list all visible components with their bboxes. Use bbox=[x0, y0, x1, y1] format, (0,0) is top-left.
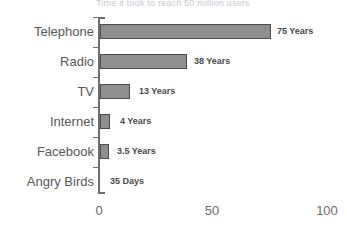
category-label: Telephone bbox=[0, 23, 94, 40]
category-label: TV bbox=[0, 83, 94, 100]
category-label: Internet bbox=[0, 113, 94, 130]
category-tick bbox=[93, 137, 99, 138]
bar-value-label: 35 Days bbox=[110, 175, 144, 188]
value-axis: 0 50 100 bbox=[0, 196, 347, 235]
x-tick-label-0: 0 bbox=[69, 202, 129, 219]
bar-value-label: 38 Years bbox=[194, 55, 230, 68]
bar-tv bbox=[100, 84, 130, 99]
plot-area: Telephone 75 Years Radio 38 Years TV 13 … bbox=[0, 14, 347, 196]
bar-row: Internet 4 Years bbox=[0, 107, 347, 137]
bar-telephone bbox=[100, 24, 271, 39]
bar-value-label: 75 Years bbox=[277, 25, 313, 38]
bar-value-label: 4 Years bbox=[120, 115, 151, 128]
category-tick bbox=[93, 167, 99, 168]
bar-value-label: 13 Years bbox=[139, 85, 175, 98]
category-label: Radio bbox=[0, 53, 94, 70]
category-tick bbox=[93, 107, 99, 108]
bar-value-label: 3.5 Years bbox=[117, 145, 156, 158]
category-label: Angry Birds bbox=[0, 173, 94, 190]
bar-internet bbox=[100, 114, 110, 129]
bar-radio bbox=[100, 54, 187, 69]
category-tick bbox=[93, 17, 99, 18]
bar-row: Angry Birds 35 Days bbox=[0, 167, 347, 197]
x-tick-label-100: 100 bbox=[297, 202, 347, 219]
category-label: Facebook bbox=[0, 143, 94, 160]
bar-row: Radio 38 Years bbox=[0, 47, 347, 77]
bar-row: Facebook 3.5 Years bbox=[0, 137, 347, 167]
bar-chart: Time it took to reach 50 million users T… bbox=[0, 0, 347, 235]
bar-row: TV 13 Years bbox=[0, 77, 347, 107]
bar-facebook bbox=[100, 144, 109, 159]
category-tick bbox=[93, 77, 99, 78]
bar-row: Telephone 75 Years bbox=[0, 17, 347, 47]
category-tick bbox=[93, 47, 99, 48]
x-tick-label-50: 50 bbox=[182, 202, 242, 219]
chart-title: Time it took to reach 50 million users bbox=[96, 0, 347, 6]
